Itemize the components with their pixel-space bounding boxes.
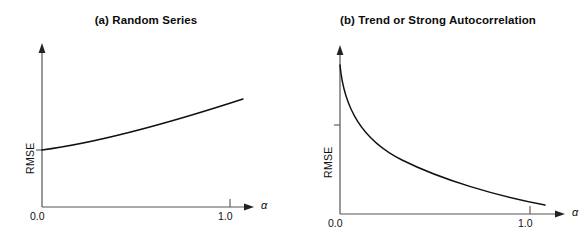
- panel-b-x-axis-arrowhead: [555, 211, 565, 218]
- panel-b-y-axis-label: RMSE: [322, 146, 334, 178]
- panel-b-xtick-label-1: 1.0: [518, 217, 533, 229]
- panel-a-x-axis-arrowhead: [244, 204, 254, 211]
- panel-a-y-axis-arrowhead: [39, 43, 46, 53]
- panel-a-xtick-label-0: 0.0: [30, 210, 45, 222]
- panel-a-x-axis-label: α: [261, 199, 267, 211]
- panel-a-xtick-label-1: 1.0: [218, 210, 233, 222]
- panel-b-data-curve: [340, 65, 545, 205]
- panel-b-x-axis-label: α: [572, 206, 578, 218]
- panel-random-series: (a) Random Series RMSE 0.0 1.0 α: [0, 0, 292, 252]
- panel-b-y-axis-arrowhead: [337, 45, 344, 55]
- panel-a-y-axis-label: RMSE: [24, 142, 36, 174]
- panel-b-xtick-label-0: 0.0: [328, 217, 343, 229]
- panel-b-plot: [292, 0, 584, 252]
- panel-trend-autocorrelation: (b) Trend or Strong Autocorrelation RMSE…: [292, 0, 584, 252]
- figure-container: (a) Random Series RMSE 0.0 1.0 α (b) Tre…: [0, 0, 584, 252]
- panel-a-data-curve: [42, 99, 243, 150]
